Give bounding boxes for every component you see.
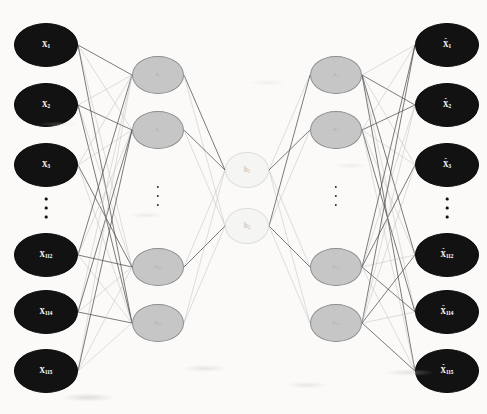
node-x2[interactable]: X2: [14, 83, 78, 127]
edge-x3-to-a2: [78, 130, 132, 165]
edge-a63-to-h1: [184, 170, 225, 267]
edge-d64-to-o114: [362, 312, 415, 323]
node-subscript: 2: [47, 103, 50, 109]
node-o1[interactable]: ˆX1: [415, 23, 479, 67]
edge-x2-to-a63: [78, 105, 132, 267]
edge-d64-to-o2: [362, 105, 415, 323]
edge-x115-to-a64: [78, 323, 132, 371]
node-subscript: 115: [45, 369, 52, 375]
node-label-a63: a63: [154, 263, 162, 271]
edge-x3-to-a64: [78, 165, 132, 323]
node-a64[interactable]: a64: [132, 304, 184, 342]
node-d1[interactable]: a1: [310, 56, 362, 94]
node-label-x2: X2: [42, 101, 50, 109]
edge-a2-to-h2: [184, 130, 225, 226]
node-subscript: 1: [159, 73, 161, 78]
hat-accent-icon: ˆ: [445, 157, 447, 164]
node-label-a64: a64: [154, 319, 162, 327]
node-label-x115: X115: [40, 367, 53, 375]
node-subscript: 1: [337, 73, 339, 78]
edge-x1-to-a1: [78, 45, 132, 75]
node-a63[interactable]: a63: [132, 248, 184, 286]
node-subscript: 64: [335, 321, 340, 326]
node-o114[interactable]: ˆX114: [415, 290, 479, 334]
edge-d64-to-o3: [362, 165, 415, 323]
edge-x115-to-a1: [78, 75, 132, 371]
node-label-x3: X3: [42, 161, 50, 169]
node-label-o112: ˆX112: [441, 251, 454, 259]
node-label-x1: X1: [42, 41, 50, 49]
node-subscript: 63: [335, 265, 340, 270]
hat-accent-icon: ˆ: [445, 97, 447, 104]
node-label-o115: ˆX115: [441, 367, 454, 375]
node-o3[interactable]: ˆX3: [415, 143, 479, 187]
node-label-a1: a1: [155, 71, 161, 79]
node-o115[interactable]: ˆX115: [415, 349, 479, 393]
node-label-a2: a2: [155, 126, 161, 134]
node-subscript: 2: [248, 224, 251, 230]
ellipsis-dot: [446, 198, 449, 201]
edge-h2-to-d64: [269, 226, 310, 323]
ellipsis-dot: [335, 186, 337, 188]
node-x112[interactable]: X112: [14, 233, 78, 277]
node-x115[interactable]: X115: [14, 349, 78, 393]
ellipsis-dot: [335, 195, 337, 197]
edge-d2-to-o3: [362, 130, 415, 165]
hat-accent-icon: ˆ: [442, 363, 444, 370]
node-o112[interactable]: ˆX112: [415, 233, 479, 277]
edge-a64-to-h1: [184, 170, 225, 323]
node-subscript: 114: [45, 310, 52, 316]
node-o2[interactable]: ˆX2: [415, 83, 479, 127]
ellipsis-dot: [45, 207, 48, 210]
node-d64[interactable]: a64: [310, 304, 362, 342]
hat-accent-icon: ˆ: [442, 304, 444, 311]
node-d63[interactable]: a63: [310, 248, 362, 286]
node-subscript: 114: [446, 310, 453, 316]
edge-x114-to-a1: [78, 75, 132, 312]
node-label-d2: a2: [333, 126, 339, 134]
node-h1[interactable]: h1: [225, 152, 269, 188]
node-subscript: 115: [446, 369, 453, 375]
edge-a64-to-h2: [184, 226, 225, 323]
node-subscript: 2: [159, 128, 161, 133]
ellipsis-dot: [335, 204, 337, 206]
node-label-o2: ˆX2: [443, 101, 451, 109]
node-d2[interactable]: a2: [310, 111, 362, 149]
edge-layer: [0, 0, 487, 414]
node-label-h2: h2: [244, 222, 251, 230]
node-subscript: 2: [448, 103, 451, 109]
node-subscript: 1: [448, 43, 451, 49]
ellipsis-dot: [446, 207, 449, 210]
edge-x114-to-a64: [78, 312, 132, 323]
node-x114[interactable]: X114: [14, 290, 78, 334]
node-subscript: 1: [47, 43, 50, 49]
node-subscript: 1: [248, 168, 251, 174]
node-label-h1: h1: [244, 166, 251, 174]
node-a2[interactable]: a2: [132, 111, 184, 149]
node-h2[interactable]: h2: [225, 208, 269, 244]
node-subscript: 112: [45, 253, 52, 259]
node-label-o114: ˆX114: [441, 308, 454, 316]
node-label-o1: ˆX1: [443, 41, 451, 49]
node-a1[interactable]: a1: [132, 56, 184, 94]
edge-h2-to-d2: [269, 130, 310, 226]
edge-d64-to-o1: [362, 45, 415, 323]
ellipsis-dot: [446, 216, 449, 219]
input-ellipsis: [45, 198, 48, 219]
hat-accent-icon: ˆ: [442, 247, 444, 254]
node-label-d63: a63: [332, 263, 340, 271]
node-x1[interactable]: X1: [14, 23, 78, 67]
edge-d1-to-o115: [362, 75, 415, 371]
node-subscript: 63: [157, 265, 162, 270]
edge-d1-to-o1: [362, 45, 415, 75]
edge-a1-to-h1: [184, 75, 225, 170]
edge-h1-to-d63: [269, 170, 310, 267]
encoder-hidden-ellipsis: [157, 186, 159, 206]
decoder-hidden-ellipsis: [335, 186, 337, 206]
node-subscript: 112: [446, 253, 453, 259]
node-x3[interactable]: X3: [14, 143, 78, 187]
edge-h2-to-d63: [269, 226, 310, 267]
edge-x1-to-a64: [78, 45, 132, 323]
edge-d64-to-o115: [362, 323, 415, 371]
node-subscript: 2: [337, 128, 339, 133]
